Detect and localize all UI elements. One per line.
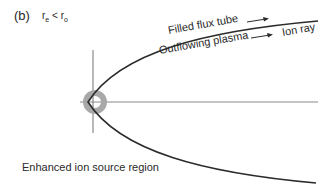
outflow-arrow: [251, 33, 273, 38]
radius-condition: re < ro: [42, 10, 68, 23]
radius-e-sub: e: [45, 16, 49, 23]
less-than: <: [52, 10, 58, 21]
enhanced-region-label: Enhanced ion source region: [22, 161, 159, 173]
radius-o-sub: o: [64, 16, 68, 23]
panel-label: (b): [14, 8, 30, 23]
flux-tube-arrow: [247, 17, 269, 22]
